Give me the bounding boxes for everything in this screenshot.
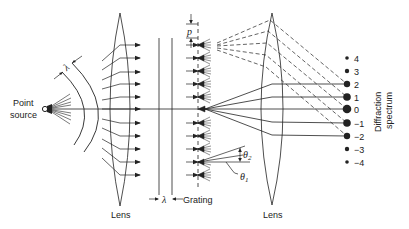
point-source-label: Point — [13, 98, 34, 108]
order-dot — [345, 69, 349, 73]
spectrum-label-2: spectrum — [384, 92, 394, 129]
order-label: −3 — [354, 145, 364, 155]
point-source-label-2: source — [10, 110, 37, 120]
order-dot — [344, 81, 350, 87]
period-label: p — [186, 26, 192, 37]
diffraction-spectrum: 43210−1−2−3−4 — [343, 54, 365, 168]
lambda-bottom-label: λ — [161, 194, 167, 205]
order-label: −2 — [354, 132, 364, 142]
order-label: 4 — [354, 54, 359, 64]
lens-left — [110, 13, 130, 206]
lambda-top-label: λ — [60, 61, 72, 73]
spectrum-label: Diffraction — [373, 92, 383, 132]
collimated-rays — [102, 45, 140, 175]
lens-right-label: Lens — [263, 210, 283, 220]
order-label: 3 — [354, 67, 359, 77]
order-dot — [345, 56, 349, 60]
order-label: 2 — [354, 80, 359, 90]
lens-left-label: Lens — [111, 210, 131, 220]
order-dot — [345, 160, 349, 164]
order-label: −1 — [354, 119, 364, 129]
diffraction-diagram: Point source λ Lens λ — [0, 0, 409, 229]
order-dot — [344, 133, 350, 139]
order-label: 1 — [354, 93, 359, 103]
order-label: 0 — [354, 105, 359, 115]
order-dot — [343, 105, 352, 114]
spherical-wavefronts — [62, 63, 98, 152]
grating-label: Grating — [183, 195, 213, 205]
order-label: −4 — [354, 158, 364, 168]
plane-wavefronts — [159, 38, 172, 195]
theta2-label: θ2 — [243, 149, 252, 162]
theta1-label: θ1 — [240, 171, 248, 184]
order-dot — [343, 119, 351, 127]
point-source-icon — [42, 106, 47, 111]
order-dot — [343, 93, 351, 101]
grating-incident-arrows — [186, 45, 198, 175]
order-dot — [345, 147, 349, 151]
